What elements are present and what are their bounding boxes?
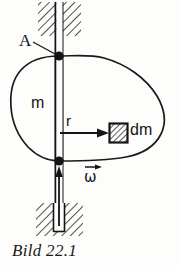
lower-pivot-node (54, 156, 63, 165)
leader-line-A (33, 42, 56, 55)
label-radius-r: r (66, 113, 71, 128)
rotation-axis-shaft-middle (56, 56, 63, 161)
label-body-mass-m: m (31, 95, 44, 111)
label-angular-velocity-omega: ω (84, 170, 97, 185)
label-mass-element-dm: dm (130, 122, 152, 138)
label-axis-point-A: A (19, 32, 31, 49)
hatched-mass-element-square (110, 124, 128, 143)
figure-container: A m r dm ω Bild 22.1 (0, 0, 179, 266)
upper-pivot-node (54, 51, 63, 60)
rotation-axis-shaft-upper (56, 2, 63, 57)
radius-arrow (60, 129, 109, 138)
figure-caption: Bild 22.1 (12, 241, 77, 261)
